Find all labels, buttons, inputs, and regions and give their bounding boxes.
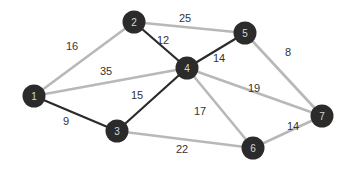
- edge-3-4: [117, 68, 187, 131]
- node-label: 4: [184, 63, 190, 74]
- node-2: 2: [123, 11, 146, 34]
- node-label: 7: [319, 111, 325, 122]
- node-label: 5: [242, 28, 248, 39]
- edge-weight-label: 15: [131, 89, 143, 101]
- weighted-graph-diagram: 1635251214819915172214 1234567: [0, 0, 352, 169]
- edge-weight-label: 9: [63, 115, 69, 127]
- edge-1-3: [34, 96, 117, 131]
- edge-1-2: [34, 22, 134, 96]
- edge-weight-label: 22: [176, 143, 188, 155]
- node-1: 1: [23, 85, 46, 108]
- node-4: 4: [176, 57, 199, 80]
- edge-weight-label: 14: [213, 52, 225, 64]
- edge-weight-label: 14: [287, 120, 299, 132]
- edge-weight-label: 35: [100, 65, 112, 77]
- node-label: 1: [31, 91, 37, 102]
- edge-weight-label: 8: [285, 46, 291, 58]
- edge-weight-label: 19: [248, 82, 260, 94]
- edge-weight-label: 17: [194, 105, 206, 117]
- nodes-group: 1234567: [23, 11, 334, 160]
- edge-weight-label: 16: [66, 40, 78, 52]
- node-3: 3: [106, 120, 129, 143]
- node-6: 6: [242, 137, 265, 160]
- node-label: 2: [131, 17, 137, 28]
- node-label: 6: [250, 143, 256, 154]
- edge-weight-label: 25: [179, 12, 191, 24]
- node-7: 7: [311, 105, 334, 128]
- node-5: 5: [234, 22, 257, 45]
- node-label: 3: [114, 126, 120, 137]
- edge-weight-label: 12: [157, 34, 169, 46]
